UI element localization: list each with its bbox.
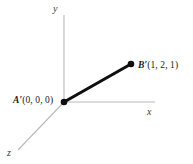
point-a-prime-marker	[61, 99, 68, 106]
point-a-prime-name: A′	[13, 95, 22, 105]
point-b-prime-coords: (1, 2, 1)	[147, 60, 178, 70]
point-b-prime-label: B′(1, 2, 1)	[138, 61, 178, 71]
coordinate-figure: y x z A′(0, 0, 0) B′(1, 2, 1)	[0, 0, 193, 164]
axes-and-segment-drawing	[0, 0, 193, 164]
z-axis-label: z	[7, 148, 11, 158]
point-a-prime-label: A′(0, 0, 0)	[13, 96, 53, 106]
point-b-prime-name: B′	[138, 60, 147, 70]
point-b-prime-marker	[128, 61, 135, 68]
point-a-prime-coords: (0, 0, 0)	[22, 95, 53, 105]
y-axis-label: y	[53, 4, 57, 14]
z-axis-line	[18, 102, 64, 150]
segment-a-prime-b-prime	[64, 64, 131, 102]
x-axis-label: x	[147, 107, 151, 117]
